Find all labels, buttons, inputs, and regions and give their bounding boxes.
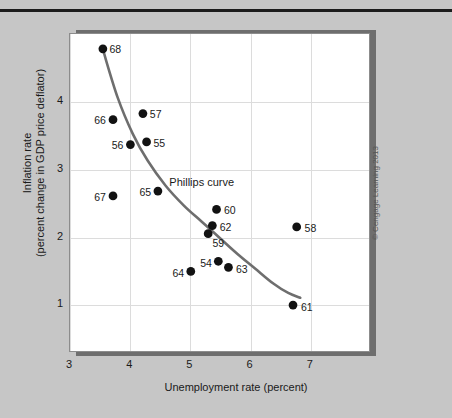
data-point-marker [289, 301, 298, 310]
data-point-label: 58 [305, 223, 317, 234]
plot-area: 686657565567656062595854636461 Phillips … [69, 33, 370, 352]
data-point-marker [109, 115, 118, 124]
chart-overlay [70, 34, 369, 351]
data-point-label: 60 [224, 205, 236, 216]
y-axis-title-line-2: (percent change in GDP price deflator) [34, 63, 47, 263]
data-point-marker [292, 223, 301, 232]
y-axis-title-line-1: Inflation rate [21, 63, 34, 263]
x-axis-tick-label: 6 [240, 358, 260, 370]
y-axis-tick-label: 1 [43, 297, 63, 309]
data-point-label: 56 [112, 140, 124, 151]
data-point-marker [204, 229, 213, 238]
data-point-label: 63 [236, 264, 248, 275]
plot-inner: 686657565567656062595854636461 Phillips … [70, 34, 369, 351]
data-point-label: 64 [173, 268, 185, 279]
data-point-marker [212, 205, 221, 214]
data-point-label: 61 [301, 302, 313, 313]
x-axis-title: Unemployment rate (percent) [10, 381, 452, 393]
data-point-label: 57 [150, 109, 162, 120]
y-axis-title: Inflation rate (percent change in GDP pr… [21, 63, 47, 263]
data-point-label: 68 [110, 44, 122, 55]
x-axis-tick-label: 5 [179, 358, 199, 370]
data-point-label: 59 [212, 238, 224, 249]
data-point-marker [214, 257, 223, 266]
data-point-marker [139, 109, 148, 118]
data-point-label: 67 [94, 192, 106, 203]
data-point-marker [126, 140, 135, 149]
x-axis-tick-label: 3 [59, 358, 79, 370]
copyright-notice: © Cengage Learning 2013 [371, 146, 380, 240]
data-point-label: 54 [200, 258, 212, 269]
x-axis-tick-label: 4 [119, 358, 139, 370]
data-point-marker [142, 138, 151, 147]
curve-annotation-label: Phillips curve [169, 176, 234, 188]
data-point-label: 62 [220, 222, 232, 233]
data-point-marker [224, 263, 233, 272]
data-point-marker [154, 187, 163, 196]
data-point-marker [186, 267, 195, 276]
top-divider-rule [0, 9, 452, 12]
data-point-marker [208, 221, 217, 230]
data-point-marker [99, 44, 108, 53]
x-axis-tick-label: 7 [300, 358, 320, 370]
data-point-marker [109, 192, 118, 201]
data-point-label: 55 [153, 138, 165, 149]
data-point-label: 66 [94, 115, 106, 126]
data-point-label: 65 [139, 187, 151, 198]
